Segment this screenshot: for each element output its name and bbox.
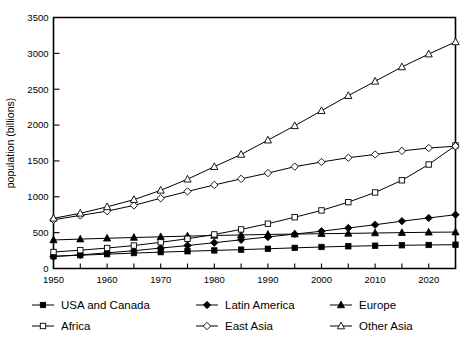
chart-background — [0, 0, 468, 337]
legend-label: Latin America — [225, 299, 295, 311]
legend-label: Africa — [61, 320, 91, 332]
data-point-open-square — [426, 162, 431, 167]
data-point-filled-square — [426, 242, 431, 247]
data-point-filled-square — [238, 247, 243, 252]
data-point-open-square — [212, 232, 217, 237]
x-tick-label: 2010 — [365, 274, 386, 285]
y-tick-label: 1500 — [27, 155, 48, 166]
x-tick-label: 1970 — [150, 274, 171, 285]
x-tick-label: 1980 — [204, 274, 225, 285]
data-point-open-square — [238, 227, 243, 232]
y-tick-label: 3000 — [27, 48, 48, 59]
data-point-open-square — [399, 178, 404, 183]
data-point-open-square — [51, 249, 56, 254]
data-point-open-square — [346, 199, 351, 204]
x-tick-label: 1990 — [257, 274, 278, 285]
data-point-filled-square — [319, 244, 324, 249]
chart-canvas: 0500100015002000250030003500 19501960197… — [0, 0, 468, 337]
y-axis-title: population (billions) — [4, 98, 16, 188]
x-tick-label: 1960 — [97, 274, 118, 285]
data-point-open-square — [185, 236, 190, 241]
y-tick-label: 1000 — [27, 191, 48, 202]
legend-label: Europe — [359, 299, 396, 311]
x-tick-label: 2000 — [311, 274, 332, 285]
data-point-open-square — [78, 248, 83, 253]
data-point-filled-square — [399, 243, 404, 248]
data-point-filled-square — [265, 246, 270, 251]
data-point-filled-square — [40, 302, 45, 307]
data-point-filled-square — [372, 243, 377, 248]
x-tick-label: 1950 — [43, 274, 64, 285]
data-point-open-square — [40, 323, 45, 328]
data-point-open-square — [265, 221, 270, 226]
data-point-open-square — [372, 190, 377, 195]
data-point-open-square — [131, 243, 136, 248]
y-tick-label: 2500 — [27, 84, 48, 95]
population-line-chart: 0500100015002000250030003500 19501960197… — [0, 0, 468, 337]
legend-label: USA and Canada — [61, 299, 150, 311]
data-point-filled-square — [212, 248, 217, 253]
legend-label: Other Asia — [359, 320, 413, 332]
y-tick-label: 2000 — [27, 119, 48, 130]
data-point-filled-square — [292, 245, 297, 250]
data-point-filled-square — [453, 242, 458, 247]
data-point-open-square — [158, 240, 163, 245]
data-point-filled-square — [346, 244, 351, 249]
legend-label: East Asia — [225, 320, 274, 332]
y-tick-label: 500 — [33, 227, 49, 238]
y-tick-label: 3500 — [27, 12, 48, 23]
y-tick-label: 0 — [43, 263, 48, 274]
data-point-open-square — [319, 208, 324, 213]
x-tick-label: 2020 — [418, 274, 439, 285]
data-point-open-square — [292, 215, 297, 220]
data-point-open-square — [104, 245, 109, 250]
